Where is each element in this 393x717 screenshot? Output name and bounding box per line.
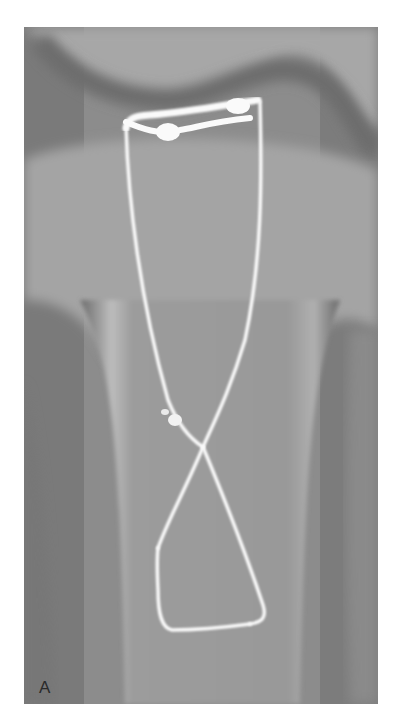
panel-label: A [39, 678, 50, 698]
xray-image: A [24, 27, 378, 704]
radiograph-drawing [24, 27, 378, 704]
